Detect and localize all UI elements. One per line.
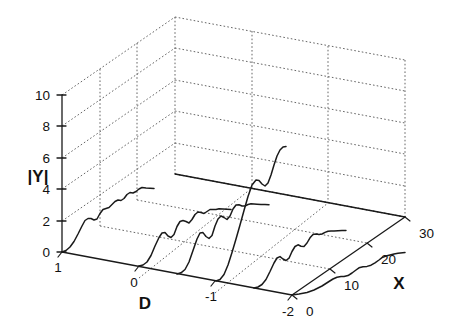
gridline-left-z6: [62, 80, 175, 158]
z-ticklabel-10: 10: [35, 88, 50, 103]
d-axis-title: D: [139, 294, 151, 313]
x-tick-20: [367, 243, 372, 247]
gridline-left-z4: [62, 111, 175, 189]
gridline-right-z6: [175, 80, 405, 123]
floorline-x10: [139, 188, 252, 278]
gridline-left-z2: [62, 143, 175, 221]
gridline-right-z2: [175, 143, 405, 186]
d-ticklabel-neg1: -1: [205, 289, 217, 304]
d-tick-neg2: [288, 295, 292, 300]
x-ticklabel-0: 0: [306, 304, 314, 319]
floor-grid: [100, 174, 405, 293]
z-ticklabel-8: 8: [42, 119, 50, 134]
back-left-wall-grid: [62, 17, 175, 226]
data-curve-d-1: [62, 188, 154, 253]
x-ticklabel-30: 30: [419, 226, 434, 241]
z-ticklabel-0: 0: [42, 245, 50, 260]
d-tick-1: [58, 252, 62, 257]
axis-box-edges: [62, 95, 405, 295]
gridline-right-z8: [175, 48, 405, 91]
z-ticklabel-6: 6: [42, 151, 50, 166]
chart-figure: 10 8 6 4 2 0 1 0 -1 -2 0 10 20 30 |Y| D …: [0, 0, 451, 327]
d-tick-0: [135, 266, 139, 271]
back-right-wall-grid: [175, 17, 405, 217]
x-tick-10: [330, 269, 335, 273]
d-ticklabel-neg2: -2: [282, 304, 294, 319]
gridline-right-z10: [175, 17, 405, 60]
x-ticklabel-20: 20: [381, 252, 396, 267]
d-tick-neg1: [211, 281, 215, 286]
floorline-x20: [215, 203, 328, 293]
gridline-left-z10: [62, 17, 175, 95]
x-ticklabel-10: 10: [344, 278, 359, 293]
waterfall-plot-3d: 10 8 6 4 2 0 1 0 -1 -2 0 10 20 30 |Y| D …: [0, 0, 451, 327]
d-ticklabel-0: 0: [130, 275, 138, 290]
floorline-d0p67: [100, 226, 330, 269]
data-curve-d-neg0p2: [177, 204, 269, 274]
z-axis-title: |Y|: [28, 167, 49, 186]
gridline-left-z8: [62, 48, 175, 126]
x-tick-30: [405, 217, 410, 221]
gridline-right-z4: [175, 111, 405, 154]
data-curve-d-0p4: [139, 209, 231, 266]
z-ticklabel-2: 2: [42, 214, 50, 229]
x-axis-title: X: [393, 274, 405, 293]
d-ticklabel-1: 1: [54, 260, 62, 275]
